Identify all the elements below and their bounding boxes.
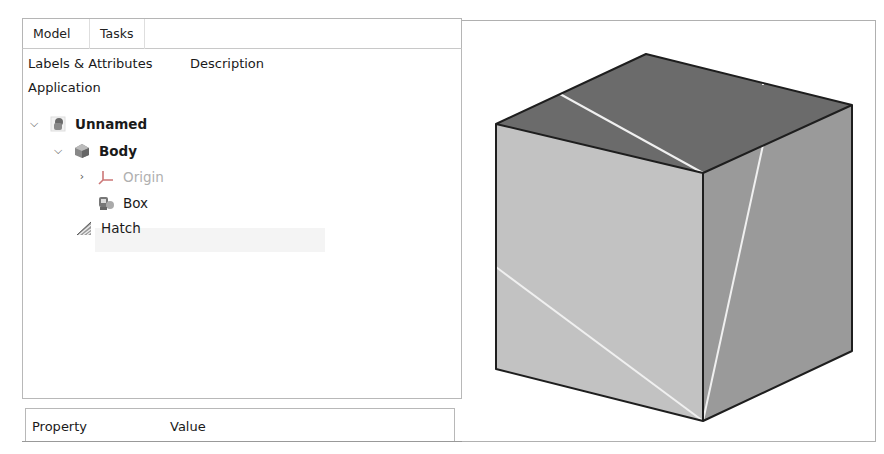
origin-axes-icon xyxy=(97,168,115,186)
tab-model[interactable]: Model xyxy=(23,19,95,49)
body-icon xyxy=(73,142,91,160)
cube-render xyxy=(462,21,876,443)
tree-item-label: Body xyxy=(99,138,137,164)
tree-item-unnamed[interactable]: ⌵ Unnamed xyxy=(27,111,147,137)
column-description[interactable]: Description xyxy=(190,53,264,75)
3d-viewport[interactable] xyxy=(462,20,876,442)
column-property[interactable]: Property xyxy=(32,419,87,434)
column-labels-attributes[interactable]: Labels & Attributes xyxy=(28,56,152,71)
tab-tasks[interactable]: Tasks xyxy=(89,19,145,49)
tree-item-label: Hatch xyxy=(101,215,141,241)
model-tree: Labels & Attributes Description Applicat… xyxy=(22,49,462,399)
tree-item-label: Box xyxy=(123,190,148,216)
property-view: Property Value xyxy=(25,408,455,442)
tree-item-label: Origin xyxy=(123,164,164,190)
chevron-right-icon[interactable]: › xyxy=(75,164,89,190)
hatch-icon xyxy=(75,219,93,237)
tree-header: Labels & Attributes Description xyxy=(28,53,152,75)
document-icon xyxy=(49,115,67,133)
panel-bottom-divider xyxy=(22,441,462,442)
box-feature-icon xyxy=(97,194,115,212)
tree-item-hatch[interactable]: Hatch xyxy=(75,215,141,241)
tree-item-box[interactable]: Box xyxy=(97,190,148,216)
chevron-down-icon[interactable]: ⌵ xyxy=(27,111,41,137)
tab-bar: Model Tasks xyxy=(22,18,462,49)
tree-item-label: Unnamed xyxy=(75,111,147,137)
application-label: Application xyxy=(28,77,101,99)
chevron-down-icon[interactable]: ⌵ xyxy=(51,138,65,164)
combo-view: Model Tasks Labels & Attributes Descript… xyxy=(22,18,462,442)
tree-item-body[interactable]: ⌵ Body xyxy=(51,138,137,164)
tree-item-origin[interactable]: › Origin xyxy=(75,164,164,190)
column-value[interactable]: Value xyxy=(170,419,206,434)
